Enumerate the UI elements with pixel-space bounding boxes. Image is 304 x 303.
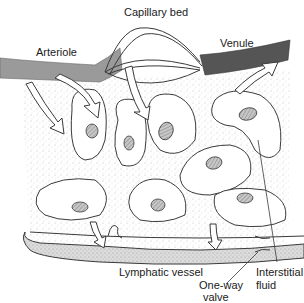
nucleus (151, 199, 165, 211)
label-capillary-bed: Capillary bed (124, 6, 188, 18)
label-venule: Venule (220, 37, 254, 49)
nucleus (237, 193, 253, 203)
label-interstitial-fluid-2: fluid (256, 279, 276, 291)
label-one-way-valve-1: One-way (199, 279, 243, 291)
nucleus (72, 202, 88, 212)
nucleus (86, 124, 98, 138)
label-interstitial-fluid-1: Interstitial (256, 266, 303, 278)
label-one-way-valve-2: valve (203, 291, 229, 303)
label-lymphatic-vessel: Lymphatic vessel (119, 266, 203, 278)
nucleus (124, 136, 134, 150)
label-arteriole: Arteriole (36, 46, 77, 58)
